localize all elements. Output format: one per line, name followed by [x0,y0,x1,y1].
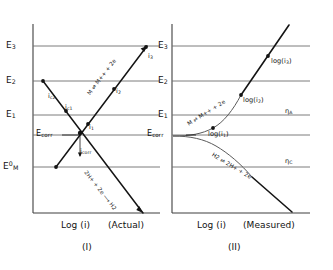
panel1-label-E0H: E0M [3,161,18,171]
sub-2d: 2 [258,99,261,104]
sub-1b: 1 [91,126,94,131]
anodic-start-dot-I [54,165,58,169]
panel1-label-E1: E1 [6,110,16,120]
point-logi3-dot [266,54,270,58]
cathodic-line-I [43,81,143,213]
point-i3-dot [144,45,148,49]
panel2-label-logi1: log(i1) [208,131,229,139]
sub-corrb: corr [82,150,91,155]
panel2-xlabel: Log (i) [197,221,226,230]
panel1-cathodic-tafel-line [41,79,143,213]
cathodic-curve-lower-II [252,177,292,212]
sub-2b: 2 [118,90,121,95]
panel2-label-Ecorr: Ecorr [147,130,164,139]
sub-3d: 3 [286,60,289,65]
panel1-caption: (I) [82,243,92,252]
sub-3b: 3 [150,55,153,60]
sub-corr: corr [41,132,52,138]
panel1-label-ic1: ic1 [65,104,73,112]
panel2-label-E2: E2 [158,76,168,86]
sub-C: C [289,160,292,165]
panel1-label-E2: E2 [6,76,16,86]
panel2-cathodic-branch [173,136,292,212]
panel1-label-icorr: icorr [80,148,91,156]
panel1-gridlines [33,46,160,167]
point-ic2-dot [41,79,45,83]
sub-corrc: corr [152,132,163,138]
panel1-label-i2: i2 [116,88,121,96]
panel2-label-logi2: log(i2) [243,97,264,105]
panel1-label-ic2: ic2 [48,93,56,101]
panel2-label-etaA: ηA [285,108,293,116]
sub-3c: 3 [164,43,168,50]
panel2-caption: (II) [228,243,241,252]
cathodic-arrow-head-I [136,206,143,213]
panel2-label-logi3: log(i3) [271,58,292,66]
sub-2c: 2 [164,78,168,85]
evans-diagram-figure: E3 E2 E1 E0M Ecorr ic2 ic1 i1 i2 i3 icor… [0,0,333,270]
panel2-xqualifier: (Measured) [243,221,295,230]
sub-c1: c1 [67,106,73,111]
panel2-label-E3: E3 [158,41,168,51]
sub-1: 1 [12,112,16,119]
panel2-label-etaC: ηC [285,158,293,166]
panel1-label-i1: i1 [89,124,94,132]
panel1-xqualifier: (Actual) [108,221,144,230]
sub-3: 3 [12,43,16,50]
sub-c2: c2 [50,95,56,100]
panel1-label-E3: E3 [6,41,16,51]
panel1-xlabel: Log (i) [61,221,90,230]
sub-A: A [289,110,292,115]
panel1-label-Ecorr: Ecorr [36,130,53,139]
panel2-label-E1: E1 [158,110,168,120]
sub-1c: 1 [164,112,168,119]
sub-1d: 1 [223,133,226,138]
sub-H: M [13,164,19,171]
sub-2: 2 [12,78,16,85]
panel1-label-i3: i3 [148,53,153,61]
